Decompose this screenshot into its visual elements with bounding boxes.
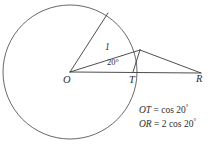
- baseline-O-to-R: [70, 72, 201, 73]
- equations-block: OT = cos 20° OR = 2 cos 20°: [139, 102, 196, 129]
- vertex-label-T: T: [129, 75, 135, 86]
- equation-coefficient: 2: [162, 119, 167, 129]
- vertex-label-R: R: [196, 74, 202, 85]
- vertex-label-O: O: [63, 75, 71, 86]
- radius-line-upper: [70, 13, 108, 72]
- equation-relation: =: [154, 119, 159, 129]
- equation-lhs: OR: [139, 119, 152, 129]
- equation-function: cos: [161, 105, 174, 115]
- equation-lhs: OT: [139, 105, 151, 115]
- radius-line-to-apex: [70, 50, 140, 72]
- angle-label-20-degrees: 20°: [107, 58, 119, 67]
- equation-function: cos: [169, 119, 182, 129]
- degree-symbol: °: [186, 103, 189, 110]
- equation-relation: =: [154, 105, 159, 115]
- equation-angle: 20: [176, 105, 186, 115]
- degree-symbol: °: [193, 117, 196, 124]
- equation-row: OT = cos 20°: [139, 102, 196, 116]
- geometry-figure: O T R 1 20° OT = cos 20° OR = 2 cos 20°: [0, 0, 216, 148]
- radius-length-label: 1: [105, 43, 110, 53]
- segment-apex-to-R: [140, 50, 201, 73]
- equation-row: OR = 2 cos 20°: [139, 116, 196, 130]
